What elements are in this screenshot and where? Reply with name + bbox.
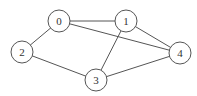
edge-2-3 [22, 52, 96, 80]
node-3: 3 [85, 69, 107, 91]
nodes: 01234 [11, 10, 191, 91]
node-label: 1 [123, 15, 129, 27]
node-label: 4 [177, 47, 183, 59]
graph-diagram: 01234 [0, 0, 197, 96]
node-2: 2 [11, 41, 33, 63]
node-0: 0 [48, 10, 70, 32]
node-1: 1 [115, 10, 137, 32]
node-label: 0 [56, 15, 62, 27]
node-label: 3 [93, 74, 99, 86]
node-4: 4 [169, 42, 191, 64]
node-label: 2 [19, 46, 25, 58]
edge-3-4 [96, 53, 180, 80]
